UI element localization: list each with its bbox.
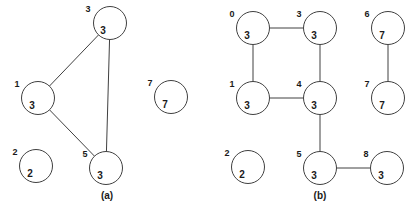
node-circle [237, 12, 270, 45]
graph-node: 34 [296, 79, 336, 114]
graph-edge [49, 35, 98, 86]
graph-node: 31 [14, 79, 54, 114]
panel-caption: (a) [101, 190, 113, 201]
node-index-label: 3 [296, 9, 301, 19]
graph-node: 76 [364, 9, 404, 44]
node-value-label: 3 [311, 30, 317, 41]
node-circle [155, 81, 188, 114]
node-circle [372, 12, 405, 45]
node-circle [20, 150, 53, 183]
node-circle [371, 152, 404, 185]
graph-node: 33 [296, 9, 336, 44]
graph-node: 33 [85, 4, 126, 39]
node-value-label: 3 [311, 100, 317, 111]
graph-edge [50, 110, 95, 156]
node-circle [237, 82, 270, 115]
graph-node: 30 [229, 9, 269, 44]
node-index-label: 1 [14, 79, 19, 89]
graph-node: 35 [82, 149, 122, 184]
graph-node: 31 [229, 79, 269, 114]
node-index-label: 5 [82, 149, 87, 159]
node-index-label: 7 [147, 78, 152, 88]
node-value-label: 3 [97, 170, 103, 181]
node-index-label: 1 [229, 79, 234, 89]
node-value-label: 3 [100, 25, 106, 36]
node-index-label: 2 [224, 148, 229, 158]
node-circle [94, 7, 127, 40]
node-index-label: 7 [364, 79, 369, 89]
edges-layer [49, 28, 388, 168]
node-index-label: 6 [364, 9, 369, 19]
graph-node: 22 [12, 147, 52, 182]
node-value-label: 3 [311, 170, 317, 181]
node-value-label: 3 [244, 30, 250, 41]
node-circle [304, 152, 337, 185]
node-index-label: 3 [85, 4, 90, 14]
node-value-label: 7 [379, 100, 385, 111]
node-value-label: 2 [239, 169, 245, 180]
node-value-label: 7 [162, 99, 168, 110]
graph-edge [106, 39, 109, 151]
panel-caption: (b) [314, 190, 327, 201]
node-index-label: 2 [12, 147, 17, 157]
node-value-label: 7 [379, 30, 385, 41]
node-circle [304, 82, 337, 115]
node-circle [90, 152, 123, 185]
nodes-layer: 3331223577303376313477223538 [12, 4, 404, 184]
node-value-label: 3 [29, 100, 35, 111]
graph-node: 77 [364, 79, 404, 114]
node-index-label: 8 [363, 149, 368, 159]
graph-figure-canvas: 3331223577303376313477223538 (a)(b) [0, 0, 413, 215]
node-circle [304, 12, 337, 45]
node-index-label: 4 [296, 79, 301, 89]
graph-node: 38 [363, 149, 403, 184]
captions-layer: (a)(b) [101, 190, 327, 201]
node-value-label: 2 [27, 168, 33, 179]
node-value-label: 3 [244, 100, 250, 111]
graph-node: 35 [296, 149, 336, 184]
node-index-label: 0 [229, 9, 234, 19]
node-circle [232, 151, 265, 184]
graph-node: 77 [147, 78, 187, 113]
graph-node: 22 [224, 148, 264, 183]
node-circle [22, 82, 55, 115]
node-circle [372, 82, 405, 115]
node-index-label: 5 [296, 149, 301, 159]
node-value-label: 3 [378, 170, 384, 181]
figure-root: 3331223577303376313477223538 (a)(b) [0, 0, 413, 215]
